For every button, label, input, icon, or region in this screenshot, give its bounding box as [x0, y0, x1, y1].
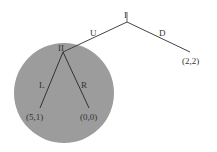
- subgame-highlight-circle: [14, 43, 114, 143]
- payoff-L: (5,1): [26, 112, 43, 122]
- node-II-label: II: [58, 43, 64, 53]
- edge-R-label: R: [81, 80, 87, 90]
- game-tree-diagram: I II U D L R (2,2) (5,1) (0,0): [0, 0, 217, 152]
- edge-D-label: D: [159, 28, 166, 38]
- edge-L-label: L: [39, 80, 45, 90]
- game-tree-svg: I II U D L R (2,2) (5,1) (0,0): [0, 0, 217, 152]
- node-I-label: I: [124, 10, 127, 20]
- payoff-D: (2,2): [182, 56, 199, 66]
- payoff-R: (0,0): [80, 112, 97, 122]
- edge-U-label: U: [90, 28, 97, 38]
